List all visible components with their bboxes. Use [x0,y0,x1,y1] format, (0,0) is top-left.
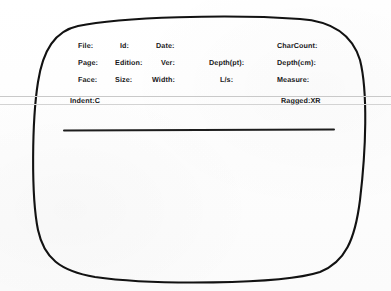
scan-rule-lower [0,104,391,105]
scan-rule-upper [0,96,391,97]
field-label-charcount: CharCount: [277,41,318,50]
field-label-ragged: Ragged:XR [281,96,321,105]
field-label-face: Face: [78,75,97,84]
field-label-width: Width: [152,75,175,84]
field-label-size: Size: [115,75,132,84]
field-label-file: File: [78,41,93,50]
field-label-date: Date: [156,41,174,50]
field-label-depth-cm: Depth(cm): [277,58,316,67]
field-label-indent: Indent:C [70,96,100,105]
field-label-measure: Measure: [277,75,309,84]
field-label-ver: Ver: [161,58,175,67]
scanned-form-page: File: Id: Date: CharCount: Page: Edition… [0,0,391,291]
field-label-page: Page: [78,58,98,67]
field-label-ls: L/s: [220,75,233,84]
field-label-id: Id: [120,41,129,50]
handdrawn-rounded-border [0,0,391,291]
field-label-edition: Edition: [115,58,143,67]
field-label-depth-pt: Depth(pt): [209,58,244,67]
